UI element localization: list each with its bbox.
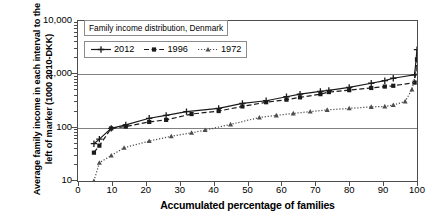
x-axis-tick-label: 10 xyxy=(97,184,127,195)
legend-item-1996[interactable]: 1996 xyxy=(143,44,187,55)
x-axis-tick-label: 30 xyxy=(165,184,195,195)
y-axis-tick-label: 1,000 xyxy=(28,68,72,78)
data-point-marker xyxy=(109,153,114,158)
data-point-marker xyxy=(415,57,417,61)
data-point-marker xyxy=(347,88,351,92)
data-point-marker xyxy=(391,102,396,107)
x-axis-tick-label: 60 xyxy=(266,184,296,195)
data-point-marker xyxy=(347,106,352,111)
legend-swatch-1996 xyxy=(143,45,165,54)
data-point-marker xyxy=(163,112,169,118)
data-point-marker xyxy=(189,130,194,135)
series-1996 xyxy=(92,57,417,154)
data-point-marker xyxy=(169,134,174,139)
series-line xyxy=(94,68,417,181)
legend-label: 1996 xyxy=(167,44,187,55)
legend-swatch-1972 xyxy=(197,45,219,54)
data-point-marker xyxy=(382,77,388,83)
x-axis-tick-label: 100 xyxy=(402,184,432,195)
data-point-marker xyxy=(390,75,396,81)
data-point-marker xyxy=(369,86,373,90)
data-point-marker xyxy=(382,104,387,109)
data-point-marker xyxy=(122,145,127,150)
x-axis-tick-label: 90 xyxy=(368,184,398,195)
data-point-marker xyxy=(92,151,96,155)
legend-label: 1972 xyxy=(221,44,241,55)
legend-item-1972[interactable]: 1972 xyxy=(197,44,241,55)
y-axis-tick-label: 100 xyxy=(28,122,72,132)
data-point-marker xyxy=(98,46,104,52)
data-point-marker xyxy=(152,47,156,51)
data-point-marker xyxy=(147,120,151,124)
series-line xyxy=(94,59,417,152)
data-point-marker xyxy=(257,115,262,120)
data-point-marker xyxy=(240,104,244,108)
x-axis-tick-label: 80 xyxy=(334,184,364,195)
x-axis-tick-labels: 0102030405060708090100 xyxy=(0,184,441,198)
x-axis-tick-label: 0 xyxy=(63,184,93,195)
data-point-marker xyxy=(409,87,414,92)
data-point-marker xyxy=(264,100,268,104)
x-axis-tick-label: 20 xyxy=(131,184,161,195)
data-point-marker xyxy=(368,80,374,86)
data-point-marker xyxy=(228,122,233,127)
data-point-marker xyxy=(205,47,210,52)
data-point-marker xyxy=(164,118,168,122)
legend-label: 2012 xyxy=(114,44,134,55)
data-point-marker xyxy=(183,108,189,114)
chart-container: Average family income in each interval t… xyxy=(0,0,441,224)
data-point-marker xyxy=(327,90,331,94)
data-point-marker xyxy=(411,72,417,78)
data-point-marker xyxy=(124,124,128,128)
data-point-marker xyxy=(298,95,302,99)
data-point-marker xyxy=(414,46,417,52)
legend-keys: 201219961972 xyxy=(84,41,247,58)
data-point-marker xyxy=(189,112,193,116)
data-point-marker xyxy=(391,84,395,88)
legend-swatch-2012 xyxy=(90,45,112,54)
x-axis-tick-label: 70 xyxy=(300,184,330,195)
data-point-marker xyxy=(97,144,101,148)
data-point-marker xyxy=(91,178,96,181)
legend-title: Family income distribution, Denmark xyxy=(84,20,228,36)
series-2012 xyxy=(91,46,417,146)
data-point-marker xyxy=(383,84,387,88)
data-point-marker xyxy=(308,109,313,114)
data-point-marker xyxy=(318,92,322,96)
x-axis-tick-label: 50 xyxy=(233,184,263,195)
x-axis-tick-label: 40 xyxy=(199,184,229,195)
x-axis-title: Accumulated percentage of families xyxy=(77,199,418,211)
data-point-marker xyxy=(97,160,102,165)
data-point-marker xyxy=(109,126,113,130)
data-point-marker xyxy=(284,98,288,102)
legend: Family income distribution, Denmark 2012… xyxy=(84,17,247,58)
legend-item-2012[interactable]: 2012 xyxy=(90,44,134,55)
y-axis-tick-label: 10,000 xyxy=(28,15,72,25)
y-axis-tick-labels: 101001,00010,000 xyxy=(26,0,72,200)
series-line xyxy=(94,50,417,144)
data-point-marker xyxy=(217,109,221,113)
